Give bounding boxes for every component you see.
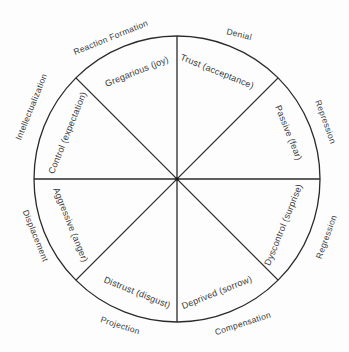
inner-label-control: Control (expectation) bbox=[46, 90, 88, 175]
outer-label-compensation: Compensation bbox=[213, 310, 272, 338]
outer-label-repression: Repression bbox=[313, 98, 338, 145]
wheel-lines bbox=[34, 36, 320, 322]
inner-label-aggressive: Aggressive (anger) bbox=[51, 186, 90, 264]
outer-label-regression: Regression bbox=[314, 213, 339, 260]
outer-label-intellectualization: Intellectualization bbox=[13, 72, 49, 142]
inner-label-trust: Trust (acceptance) bbox=[179, 52, 255, 91]
outer-label-reaction-formation: Reaction Formation bbox=[72, 18, 150, 57]
outer-label-denial: Denial bbox=[225, 26, 253, 42]
emotion-defense-wheel: Gregarious (joy) Trust (acceptance) Pass… bbox=[0, 0, 349, 352]
inner-label-passive: Passive (fear) bbox=[273, 104, 304, 162]
inner-label-distrust: Distrust (disgust) bbox=[102, 274, 172, 310]
outer-label-projection: Projection bbox=[99, 314, 141, 336]
inner-label-gregarious: Gregarious (joy) bbox=[103, 54, 170, 89]
center-dot bbox=[175, 177, 179, 181]
